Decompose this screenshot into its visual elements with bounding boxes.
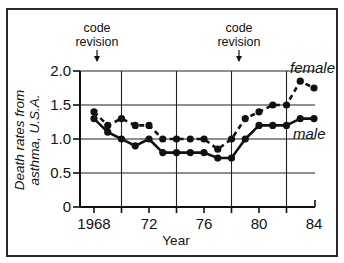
y-axis-title-line2: asthma, U.S.A.: [27, 95, 42, 186]
y-axis-title: Death rates from asthma, U.S.A.: [12, 90, 42, 191]
y-axis-ticks: 00.51.01.52.0: [50, 62, 80, 215]
code-revision-annotation-1968: code revision: [75, 21, 118, 62]
data-point: [242, 115, 249, 122]
annotation-text: revision: [217, 35, 260, 49]
data-point: [255, 122, 262, 129]
asthma-death-rate-chart: 00.51.01.52.0 196872768084 code revision…: [0, 0, 344, 263]
legend-label-male: male: [293, 125, 326, 142]
data-point: [200, 149, 207, 156]
data-point: [118, 115, 125, 122]
y-tick-label: 2.0: [50, 62, 71, 79]
data-point: [255, 108, 262, 115]
x-tick-label: 72: [141, 215, 158, 232]
data-point: [228, 135, 235, 142]
legend-label-female: female: [290, 59, 335, 76]
y-tick-label: 0: [63, 198, 71, 215]
data-series: [90, 78, 317, 162]
arrow-down-icon: [94, 50, 100, 62]
data-point: [159, 149, 166, 156]
data-point: [214, 154, 221, 161]
data-point: [283, 122, 290, 129]
data-point: [173, 149, 180, 156]
data-point: [283, 101, 290, 108]
data-point: [145, 135, 152, 142]
data-point: [269, 122, 276, 129]
y-axis-title-line1: Death rates from: [12, 90, 27, 191]
x-tick-label: 76: [196, 215, 213, 232]
data-point: [90, 108, 97, 115]
annotation-text: revision: [75, 35, 118, 49]
x-tick-label: 1968: [77, 215, 110, 232]
arrow-down-icon: [236, 50, 242, 62]
data-point: [310, 115, 317, 122]
data-point: [214, 146, 221, 153]
x-axis-title: Year: [162, 233, 190, 248]
data-point: [228, 154, 235, 161]
data-point: [132, 122, 139, 129]
x-tick-label: 84: [306, 215, 323, 232]
annotation-text: code: [225, 21, 252, 35]
y-tick-label: 1.5: [50, 96, 71, 113]
data-point: [132, 142, 139, 149]
annotation-text: code: [83, 21, 110, 35]
data-point: [90, 115, 97, 122]
data-point: [310, 84, 317, 91]
data-point: [104, 129, 111, 136]
data-point: [187, 149, 194, 156]
data-point: [269, 101, 276, 108]
data-point: [200, 135, 207, 142]
data-point: [159, 135, 166, 142]
data-point: [297, 115, 304, 122]
x-tick-label: 80: [251, 215, 268, 232]
data-point: [242, 135, 249, 142]
x-axis-ticks: 196872768084: [77, 207, 322, 232]
data-point: [187, 135, 194, 142]
data-point: [145, 122, 152, 129]
data-point: [173, 135, 180, 142]
code-revision-annotation-1979: code revision: [217, 21, 260, 62]
data-point: [118, 135, 125, 142]
data-point: [297, 78, 304, 85]
y-tick-label: 0.5: [50, 164, 71, 181]
y-tick-label: 1.0: [50, 130, 71, 147]
